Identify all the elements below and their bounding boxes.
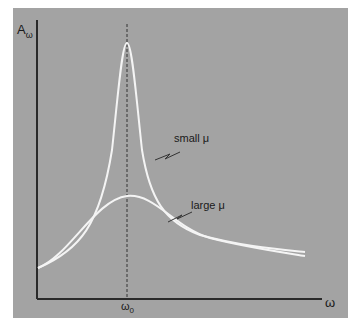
small-mu-label: small μ (174, 132, 209, 144)
panel-background (13, 8, 348, 318)
resonance-diagram: Aω ω ω0 small μ large μ (0, 0, 361, 326)
large-mu-label: large μ (191, 199, 225, 211)
x-axis-label: ω (325, 295, 335, 310)
